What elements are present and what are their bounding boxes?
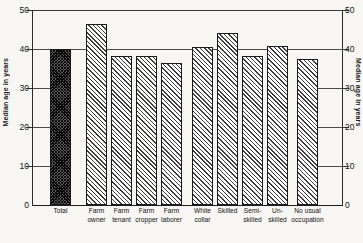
x-axis-category-labels: TotalFarmownerFarmtenantFarmcropperFarml…	[0, 207, 363, 243]
x-label-no-usual-occupation: No usualoccupation	[286, 207, 330, 224]
bar-skilled	[217, 33, 238, 205]
bar-no-usual-occupation	[297, 59, 318, 205]
bar-semi-skilled	[242, 56, 263, 205]
x-label-line: collar	[181, 216, 225, 225]
bar-white-collar	[192, 47, 213, 205]
bar-total	[50, 49, 71, 205]
bar-farm-owner	[86, 24, 107, 205]
bar-farm-laborer	[161, 63, 182, 205]
bar-farm-cropper	[136, 56, 157, 205]
x-label-line: occupation	[286, 216, 330, 225]
x-label-line: No usual	[286, 207, 330, 216]
bar-un-skilled	[267, 46, 288, 205]
bar-farm-tenant	[111, 56, 132, 205]
bar-chart: Median age in years Median age in years …	[0, 0, 363, 243]
